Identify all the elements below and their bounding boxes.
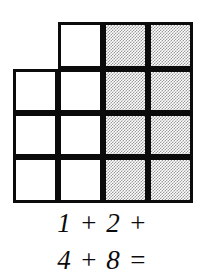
grid-cell-r3c1: [13, 113, 58, 157]
cell-grid: [13, 22, 193, 203]
grid-cell-r3c3: [103, 113, 148, 157]
grid-cell-r4c3: [103, 157, 148, 203]
grid-cell-r1c3: [103, 22, 148, 69]
diagram-figure: 1 + 2 + 4 + 8 =: [0, 0, 205, 279]
grid-cell-r2c3: [103, 69, 148, 113]
grid-cell-r4c1: [13, 157, 58, 203]
grid-cell-r2c1: [13, 69, 58, 113]
grid-cell-r4c4: [148, 157, 193, 203]
grid-cell-r2c2: [58, 69, 103, 113]
equation-line-2: 4 + 8 =: [0, 242, 205, 279]
equation-line-1: 1 + 2 +: [0, 205, 205, 242]
grid-cell-r3c4: [148, 113, 193, 157]
grid-cell-r1c4: [148, 22, 193, 69]
grid-cell-r3c2: [58, 113, 103, 157]
grid-cell-r2c4: [148, 69, 193, 113]
grid-cell-r4c2: [58, 157, 103, 203]
grid-cell-r1c2: [58, 22, 103, 69]
equation-block: 1 + 2 + 4 + 8 =: [0, 205, 205, 279]
